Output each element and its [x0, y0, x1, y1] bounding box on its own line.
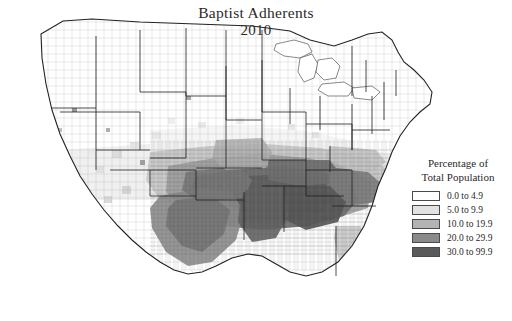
legend-title-line2: Total Population [406, 171, 510, 185]
legend-item[interactable]: 0.0 to 4.9 [406, 189, 510, 203]
legend-item[interactable]: 10.0 to 19.9 [406, 217, 510, 231]
legend-swatch-4 [412, 247, 440, 257]
legend-swatch-0 [412, 191, 440, 201]
legend-label-2: 10.0 to 19.9 [447, 219, 492, 229]
legend-swatch-1 [412, 205, 440, 215]
legend-title: Percentage of Total Population [406, 157, 510, 184]
legend-item[interactable]: 30.0 to 99.9 [406, 245, 510, 259]
legend-title-line1: Percentage of [406, 157, 510, 171]
legend-swatch-2 [412, 219, 440, 229]
legend-item[interactable]: 5.0 to 9.9 [406, 203, 510, 217]
legend-label-0: 0.0 to 4.9 [447, 191, 483, 201]
legend-label-3: 20.0 to 29.9 [447, 233, 492, 243]
legend-swatch-3 [412, 233, 440, 243]
map-legend: Percentage of Total Population 0.0 to 4.… [406, 157, 510, 259]
legend-label-4: 30.0 to 99.9 [447, 247, 492, 257]
legend-item[interactable]: 20.0 to 29.9 [406, 231, 510, 245]
legend-label-1: 5.0 to 9.9 [447, 205, 483, 215]
